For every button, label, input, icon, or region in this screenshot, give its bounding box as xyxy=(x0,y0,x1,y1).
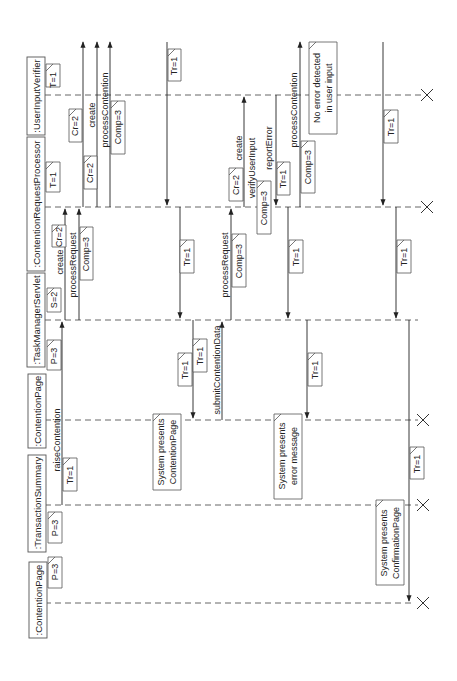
sequence-diagram: :UserInputVerifier :ContentionRequestPro… xyxy=(0,0,457,681)
svg-text:Comp=3: Comp=3 xyxy=(259,191,269,225)
tag-note: Tr=1 xyxy=(384,110,398,143)
object-label: :ContentionPage xyxy=(32,376,43,447)
object-label: :ContentionPage xyxy=(33,565,44,636)
tag-note: Tr=1 xyxy=(180,240,194,273)
destroy-x-icon xyxy=(417,499,429,511)
note-presents-error-message: System presents error message xyxy=(274,414,302,499)
object-boxes: :UserInputVerifier :ContentionRequestPro… xyxy=(27,57,47,638)
tag-note: Tr=1 xyxy=(178,353,192,386)
object-user-input-verifier[interactable]: :UserInputVerifier xyxy=(27,57,45,135)
svg-text:Cr=2: Cr=2 xyxy=(70,116,80,136)
svg-text:Tr=1: Tr=1 xyxy=(180,361,190,379)
svg-text:Tr=1: Tr=1 xyxy=(278,170,288,188)
svg-text:Cr=2: Cr=2 xyxy=(54,227,64,247)
tag-note: Cr=2 xyxy=(52,225,66,247)
tag-note: Tr=1 xyxy=(289,240,303,273)
tag-note: T=1 xyxy=(46,162,60,192)
tag-note: Comp=3 xyxy=(257,181,271,234)
destroy-x-icon xyxy=(417,414,429,426)
tag-note: Comp=3 xyxy=(232,234,246,287)
object-label: :TransactionSummary xyxy=(32,456,43,549)
tag-note: Tr=1 xyxy=(63,458,77,491)
svg-text:Cr=2: Cr=2 xyxy=(231,175,241,195)
svg-text:System presents: System presents xyxy=(156,418,166,486)
svg-text:submitContentionData: submitContentionData xyxy=(212,325,222,414)
tag-note: Cr=2 xyxy=(69,109,82,142)
tag-note: S=2 xyxy=(47,288,61,312)
svg-text:System presents: System presents xyxy=(379,509,389,577)
svg-text:Tr=1: Tr=1 xyxy=(412,455,422,473)
svg-text:P=3: P=3 xyxy=(50,520,60,536)
tag-note: Tr=1 xyxy=(193,339,207,372)
object-contention-page-2[interactable]: :ContentionPage xyxy=(29,562,47,638)
tag-note: Tr=1 xyxy=(168,49,181,81)
object-tags: T=1 T=1 S=2 P=3 P=3 P=3 xyxy=(46,64,62,588)
svg-text:Tr=1: Tr=1 xyxy=(386,118,396,136)
tag-note: Cr=2 xyxy=(229,168,243,201)
destroy-x-icon xyxy=(421,201,433,213)
svg-text:verifyUserInput: verifyUserInput xyxy=(247,137,257,198)
svg-text:processContention: processContention xyxy=(289,72,299,147)
tag-note: Comp=3 xyxy=(111,101,125,154)
svg-text:Comp=3: Comp=3 xyxy=(234,244,244,278)
svg-text:Comp=3: Comp=3 xyxy=(303,150,313,184)
svg-text:processRequest: processRequest xyxy=(220,232,230,298)
svg-text:Tr=1: Tr=1 xyxy=(291,248,301,266)
svg-text:Cr=2: Cr=2 xyxy=(85,163,95,183)
tag-note: Tr=1 xyxy=(410,447,424,479)
svg-text:S=2: S=2 xyxy=(49,292,59,308)
destroy-x-icon xyxy=(421,89,433,101)
svg-text:Comp=3: Comp=3 xyxy=(113,110,123,144)
tag-note: Cr=2 xyxy=(84,156,97,189)
svg-text:raiseContention: raiseContention xyxy=(52,408,62,471)
tag-note: Comp=3 xyxy=(80,227,93,280)
svg-text:P=3: P=3 xyxy=(49,348,59,364)
object-task-manager-servlet[interactable]: :TaskManagerServlet xyxy=(27,273,45,367)
svg-text:Tr=1: Tr=1 xyxy=(399,248,409,266)
destroy-marks xyxy=(417,89,433,609)
tag-note: Tr=1 xyxy=(308,353,322,386)
object-contention-request-processor[interactable]: :ContentionRequestProcessor xyxy=(27,137,45,271)
svg-text:T=1: T=1 xyxy=(48,72,58,88)
svg-text:Tr=1: Tr=1 xyxy=(169,57,179,75)
svg-text:T=1: T=1 xyxy=(48,172,58,188)
destroy-x-icon xyxy=(417,597,429,609)
tag-note: P=3 xyxy=(48,557,62,588)
svg-text:System presents: System presents xyxy=(277,422,287,490)
svg-text:Tr=1: Tr=1 xyxy=(65,466,75,484)
tag-note: P=3 xyxy=(47,340,61,370)
svg-text:processContention: processContention xyxy=(100,72,110,147)
svg-text:reportError: reportError xyxy=(264,126,274,170)
svg-text:Tr=1: Tr=1 xyxy=(182,248,192,266)
svg-text:in user input: in user input xyxy=(324,63,334,113)
svg-text:Comp=3: Comp=3 xyxy=(81,237,91,271)
svg-text:Tr=1: Tr=1 xyxy=(195,347,205,365)
object-transaction-summary[interactable]: :TransactionSummary xyxy=(28,455,46,552)
svg-text:processRequest: processRequest xyxy=(68,232,78,298)
svg-text:create: create xyxy=(87,102,97,127)
note-presents-contention-page: System presents ContentionPage xyxy=(153,414,181,490)
svg-text:create: create xyxy=(234,135,244,160)
svg-text:ContentionPage: ContentionPage xyxy=(168,420,178,485)
tag-note: Tr=1 xyxy=(277,162,290,195)
svg-text:No error detected: No error detected xyxy=(312,53,322,123)
object-label: :UserInputVerifier xyxy=(31,59,42,132)
object-contention-page-1[interactable]: :ContentionPage xyxy=(28,374,46,448)
tag-note: T=1 xyxy=(46,64,60,88)
note-no-error-detected: No error detected in user input xyxy=(309,42,337,134)
tag-note: P=3 xyxy=(48,512,62,543)
svg-text:ConfirmationPage: ConfirmationPage xyxy=(391,507,401,579)
svg-text:Tr=1: Tr=1 xyxy=(310,361,320,379)
object-label: :ContentionRequestProcessor xyxy=(31,141,42,268)
object-label: :TaskManagerServlet xyxy=(31,275,42,365)
comment-notes: System presents ContentionPage System pr… xyxy=(153,42,404,585)
svg-text:error message: error message xyxy=(289,427,299,485)
note-presents-confirmation-page: System presents ConfirmationPage xyxy=(376,500,404,585)
tag-note: Comp=3 xyxy=(301,141,315,193)
svg-text:create: create xyxy=(55,249,65,274)
tag-note: Tr=1 xyxy=(397,240,411,273)
svg-text:P=3: P=3 xyxy=(50,564,60,580)
